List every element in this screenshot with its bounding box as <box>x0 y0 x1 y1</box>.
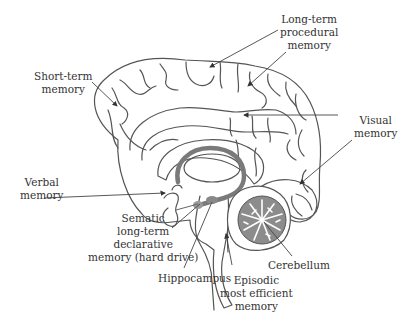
label-short-term-memory: Short-term memory <box>34 70 92 96</box>
label-episodic-memory: Episodic most efficient memory <box>220 274 293 313</box>
cerebellum-shape <box>228 186 291 250</box>
label-sematic-declarative-memory: Sematic long-term declarative memory (ha… <box>88 212 198 264</box>
arrow-long-term-procedural-2 <box>248 52 286 86</box>
arrow-episodic <box>226 234 232 265</box>
label-visual-memory: Visual memory <box>354 114 397 140</box>
arrow-long-term-procedural-1 <box>210 30 278 67</box>
label-cerebellum: Cerebellum <box>268 259 330 272</box>
label-long-term-procedural-memory: Long-term procedural memory <box>280 13 338 52</box>
label-verbal-memory: Verbal memory <box>20 176 63 202</box>
arrow-visual <box>300 140 352 184</box>
brain-memory-diagram: Short-term memory Long-term procedural m… <box>0 0 412 327</box>
